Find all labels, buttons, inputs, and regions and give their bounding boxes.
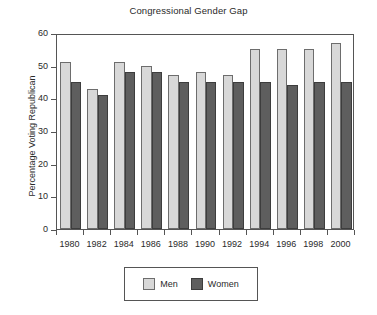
bar-men-1990 — [196, 72, 206, 229]
x-tick-mark — [354, 230, 355, 235]
legend-swatch-women-icon — [191, 278, 203, 290]
x-tick-mark — [56, 230, 57, 235]
x-tick-mark — [191, 230, 192, 235]
y-tick-mark — [51, 165, 56, 166]
x-tick-mark — [300, 230, 301, 235]
x-tick-label-2000: 2000 — [320, 239, 360, 249]
bar-men-2000 — [331, 43, 341, 229]
bar-men-1986 — [141, 66, 151, 229]
y-tick-mark — [51, 132, 56, 133]
bar-women-1996 — [287, 85, 297, 229]
bar-men-1982 — [87, 89, 97, 229]
y-tick-label: 20 — [18, 159, 48, 169]
x-tick-mark — [83, 230, 84, 235]
plot-area — [56, 34, 354, 230]
legend-label-men: Men — [160, 279, 178, 289]
y-tick-label: 30 — [18, 126, 48, 136]
y-tick-label: 40 — [18, 93, 48, 103]
x-tick-mark — [246, 230, 247, 235]
bar-men-1984 — [114, 62, 124, 229]
x-tick-mark — [273, 230, 274, 235]
x-tick-mark — [110, 230, 111, 235]
x-tick-mark — [164, 230, 165, 235]
y-tick-label: 50 — [18, 61, 48, 71]
bar-men-1980 — [60, 62, 70, 229]
y-tick-label: 60 — [18, 28, 48, 38]
x-tick-mark — [137, 230, 138, 235]
y-tick-mark — [51, 67, 56, 68]
bar-women-1992 — [233, 82, 243, 229]
bar-men-1996 — [277, 49, 287, 229]
bar-women-1998 — [314, 82, 324, 229]
chart-legend: Men Women — [124, 267, 258, 301]
bar-men-1992 — [223, 75, 233, 229]
bar-women-1986 — [152, 72, 162, 229]
bar-women-1990 — [206, 82, 216, 229]
bar-women-1984 — [125, 72, 135, 229]
y-tick-label: 10 — [18, 191, 48, 201]
y-tick-mark — [51, 197, 56, 198]
bars-container — [57, 35, 353, 229]
y-tick-label: 0 — [18, 224, 48, 234]
bar-men-1994 — [250, 49, 260, 229]
legend-item-men: Men — [143, 278, 178, 290]
y-tick-mark — [51, 34, 56, 35]
x-tick-mark — [327, 230, 328, 235]
bar-men-1988 — [168, 75, 178, 229]
bar-women-1980 — [71, 82, 81, 229]
chart-figure: Congressional Gender Gap Percentage Voti… — [0, 0, 377, 315]
bar-women-1982 — [98, 95, 108, 229]
bar-women-1994 — [260, 82, 270, 229]
bar-women-1988 — [179, 82, 189, 229]
legend-swatch-men-icon — [143, 278, 155, 290]
chart-title: Congressional Gender Gap — [0, 5, 377, 16]
y-tick-mark — [51, 99, 56, 100]
bar-men-1998 — [304, 49, 314, 229]
legend-label-women: Women — [208, 279, 239, 289]
bar-women-2000 — [341, 82, 351, 229]
x-tick-mark — [219, 230, 220, 235]
legend-item-women: Women — [191, 278, 239, 290]
